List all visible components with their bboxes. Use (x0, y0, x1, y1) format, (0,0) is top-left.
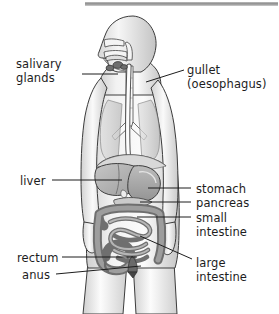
label-rectum-line1: rectum (17, 251, 58, 265)
label-gullet-line2: (oesophagus) (187, 77, 267, 91)
digestive-system-figure: salivary glands liver rectum anus gullet… (0, 0, 279, 314)
label-large-intestine-line1: large (196, 256, 247, 270)
label-salivary-glands-line1: salivary (16, 57, 62, 71)
label-pancreas-line1: pancreas (196, 196, 249, 210)
label-anus-line1: anus (22, 268, 50, 282)
label-small-intestine-line2: intestine (196, 225, 247, 239)
lung-left (100, 100, 122, 162)
label-gullet-line1: gullet (187, 63, 267, 77)
label-liver-line1: liver (20, 174, 46, 188)
label-large-intestine: large intestine (196, 256, 247, 284)
label-stomach: stomach (196, 182, 246, 196)
right-leg (133, 262, 177, 314)
label-gullet-oesophagus: gullet (oesophagus) (187, 63, 267, 91)
label-liver: liver (20, 174, 46, 188)
label-stomach-line1: stomach (196, 182, 246, 196)
submandibular-gland (106, 65, 114, 71)
label-pancreas: pancreas (196, 196, 249, 210)
label-anus: anus (22, 268, 50, 282)
label-rectum: rectum (17, 251, 58, 265)
top-gray-bar (85, 2, 278, 6)
label-salivary-glands: salivary glands (16, 57, 62, 85)
label-salivary-glands-line2: glands (16, 71, 62, 85)
sublingual-gland (121, 65, 128, 70)
label-large-intestine-line2: intestine (196, 270, 247, 284)
label-small-intestine: small intestine (196, 211, 247, 239)
label-small-intestine-line1: small (196, 211, 247, 225)
